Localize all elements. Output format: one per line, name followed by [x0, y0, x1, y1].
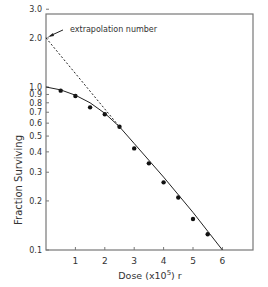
y-tick-label: 0.5 — [29, 132, 42, 141]
y-tick-label: 0.7 — [29, 108, 42, 117]
extrapolation-line — [46, 38, 120, 127]
data-point — [132, 146, 136, 150]
x-tick-label: 2 — [102, 256, 108, 266]
x-tick-label: 5 — [190, 256, 196, 266]
x-tick-label: 1 — [73, 256, 79, 266]
y-tick-label: 3.0 — [29, 5, 42, 14]
plot-frame — [46, 14, 253, 250]
x-tick-label: 3 — [131, 256, 137, 266]
data-point — [161, 180, 165, 184]
chart-svg: 0.10.20.30.40.50.60.70.80.91.02.03.01234… — [0, 0, 268, 287]
y-tick-label: 0.4 — [29, 148, 42, 157]
y-tick-label: 0.1 — [29, 246, 42, 255]
arrow-head-icon — [48, 33, 54, 37]
y-tick-label: 1.0 — [29, 83, 42, 92]
annotation-label: extrapolation number — [70, 25, 158, 34]
fit-curve — [46, 87, 222, 250]
x-axis-label: Dose (x105) r — [118, 269, 182, 281]
y-tick-label: 0.8 — [29, 99, 42, 108]
y-tick-label: 2.0 — [29, 34, 42, 43]
y-tick-label: 0.3 — [29, 168, 42, 177]
survival-chart: 0.10.20.30.40.50.60.70.80.91.02.03.01234… — [0, 0, 268, 287]
x-tick-label: 4 — [161, 256, 167, 266]
y-tick-label: 0.6 — [29, 119, 42, 128]
y-tick-label: 0.2 — [29, 197, 42, 206]
x-tick-label: 6 — [220, 256, 226, 266]
y-axis-label: Fraction Surviving — [13, 135, 24, 225]
data-point — [88, 105, 92, 109]
data-point — [191, 217, 195, 221]
